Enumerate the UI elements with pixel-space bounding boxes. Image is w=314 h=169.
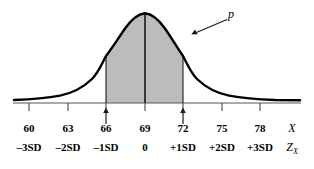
z-axis-name: ZX	[286, 141, 298, 158]
x-tick-label-78: 78	[255, 122, 266, 135]
z-tick-label-plus-1sd: +1SD	[170, 141, 196, 154]
z-axis-name-subscript: X	[293, 147, 298, 156]
z-tick-label-plus-2sd: +2SD	[209, 141, 235, 154]
x-tick-label-72: 72	[178, 122, 189, 135]
z-tick-label-minus-3sd: –3SD	[16, 141, 41, 154]
x-tick-label-75: 75	[217, 122, 228, 135]
p-annotation-label: p	[228, 8, 234, 21]
x-tick-label-63: 63	[63, 122, 74, 135]
z-axis-name-base: Z	[286, 140, 293, 154]
axis-tick-marks	[29, 103, 260, 111]
x-axis-name: X	[288, 122, 295, 135]
x-tick-label-66: 66	[101, 122, 112, 135]
x-tick-label-60: 60	[24, 122, 35, 135]
z-tick-label-plus-3sd: +3SD	[247, 141, 273, 154]
p-annotation-leader-line	[191, 20, 227, 35]
x-tick-label-69: 69	[140, 122, 151, 135]
normal-distribution-figure: p 60 63 66 69 72 75 78 X –3SD –2SD –1SD …	[0, 0, 314, 169]
z-tick-label-minus-1sd: –1SD	[93, 141, 118, 154]
z-tick-label-minus-2sd: –2SD	[55, 141, 80, 154]
z-tick-label-zero: 0	[142, 141, 148, 154]
